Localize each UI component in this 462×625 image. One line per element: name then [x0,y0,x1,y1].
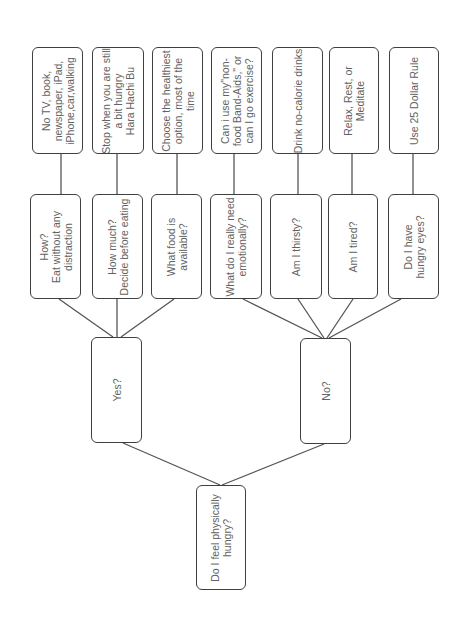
node-question-thirsty: Am I thirsty? [270,194,322,299]
node-question-what-food: What food is available? [151,194,202,299]
node-action-healthiest-option: Choose the healthiest option, most of th… [152,47,203,154]
node-label: Choose the healthiest option, most of th… [160,50,196,152]
node-question-tired: Am I tired? [328,194,378,299]
node-label: Am I thirsty? [290,217,302,275]
node-root: Do I feel physically hungry? [196,485,246,590]
node-label: Use 25 Dollar Rule [408,56,420,144]
node-label: Drink no-calorie drinks [292,48,304,152]
node-action-relax-rest-meditate: Relax, Rest, or Meditate [329,47,379,154]
node-label: Relax, Rest, or Meditate [342,66,366,135]
edge-yes-q1 [59,299,113,337]
edge-no-q4 [243,299,322,338]
node-question-how: How? Eat without any distraction [30,194,81,299]
node-label: Stop when you are still a bit hungry Har… [100,48,136,154]
edge-root-no [222,444,324,485]
node-action-25-dollar-rule: Use 25 Dollar Rule [389,47,439,154]
node-question-hungry-eyes: Do I have hungry eyes? [388,194,439,299]
node-label: Can i use my"non- food Band-Aids," or ca… [219,55,255,146]
node-label: Do I have hungry eyes? [402,215,426,278]
node-question-emotional-need: What do I really need emotionally? [210,194,262,299]
node-action-no-calorie-drinks: Drink no-calorie drinks [272,47,323,154]
edge-yes-q3 [121,299,174,337]
node-label: Yes? [111,379,123,402]
node-label: What do I really need emotionally? [224,197,248,296]
node-label: How much? Decide before eating [106,198,130,295]
node-label: Am I tired? [347,221,359,272]
node-label: How? Eat without any distraction [38,211,74,283]
node-label: Do I feel physically hungry? [209,494,233,582]
decision-tree-diagram: Do I feel physically hungry? Yes? No? Ho… [0,0,462,625]
node-label: No? [320,381,332,400]
edge-root-yes [123,443,220,485]
node-action-non-food-band-aids: Can i use my"non- food Band-Aids," or ca… [211,47,262,154]
node-action-hara-hachi-bu: Stop when you are still a bit hungry Har… [92,47,144,154]
node-yes: Yes? [91,337,142,443]
node-action-no-distraction: No TV, book, newspaper, iPad, iPhone,car… [32,47,83,154]
node-question-how-much: How much? Decide before eating [92,194,143,299]
node-label: What food is available? [165,217,189,275]
node-label: No TV, book, newspaper, iPad, iPhone,car… [40,57,76,145]
node-no: No? [300,338,351,444]
